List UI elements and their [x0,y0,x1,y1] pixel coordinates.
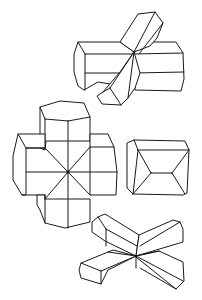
x-twin-crystal [79,214,184,289]
single-prism-crystal [127,140,189,195]
cross-twin-crystal [13,101,117,228]
crystal-figure [0,0,202,300]
top-twin-crystal [74,12,184,105]
